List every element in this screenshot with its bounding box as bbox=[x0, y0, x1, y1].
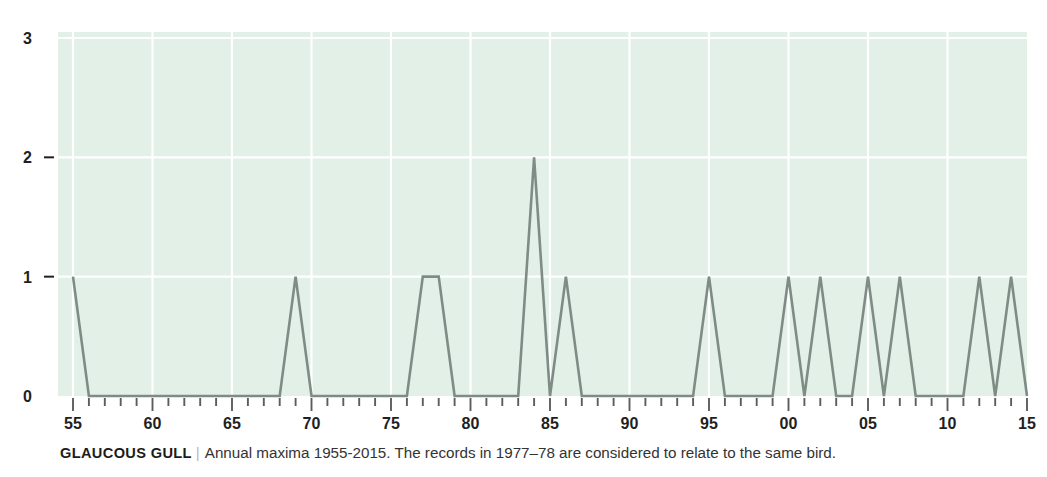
y-tick-label: 2 bbox=[23, 149, 32, 166]
chart-figure: 55606570758085909500051015 0123 GLAUCOUS… bbox=[0, 0, 1047, 477]
line-chart: 55606570758085909500051015 0123 bbox=[0, 0, 1047, 477]
x-tick-label: 70 bbox=[303, 415, 321, 432]
caption-divider: | bbox=[192, 444, 205, 461]
x-tick-label: 55 bbox=[64, 415, 82, 432]
x-tick-label: 65 bbox=[223, 415, 241, 432]
x-tick-label: 80 bbox=[462, 415, 480, 432]
caption: GLAUCOUS GULL|Annual maxima 1955-2015. T… bbox=[60, 440, 1040, 466]
x-tick-label: 00 bbox=[780, 415, 798, 432]
x-tick-label: 95 bbox=[700, 415, 718, 432]
x-tick-label: 85 bbox=[541, 415, 559, 432]
x-axis-tick-labels: 55606570758085909500051015 bbox=[64, 415, 1036, 432]
x-tick-label: 75 bbox=[382, 415, 400, 432]
y-axis-ticks bbox=[44, 157, 54, 276]
plot-background bbox=[58, 32, 1027, 396]
caption-species: GLAUCOUS GULL bbox=[60, 445, 192, 461]
x-tick-label: 05 bbox=[859, 415, 877, 432]
x-tick-label: 15 bbox=[1018, 415, 1036, 432]
y-tick-label: 0 bbox=[23, 388, 32, 405]
x-axis-ticks bbox=[73, 398, 1027, 411]
caption-note: Annual maxima 1955-2015. The records in … bbox=[205, 444, 836, 461]
y-axis-tick-labels: 0123 bbox=[23, 30, 32, 405]
x-tick-label: 60 bbox=[144, 415, 162, 432]
x-tick-label: 10 bbox=[939, 415, 957, 432]
y-tick-label: 3 bbox=[23, 30, 32, 47]
y-tick-label: 1 bbox=[23, 269, 32, 286]
x-tick-label: 90 bbox=[621, 415, 639, 432]
